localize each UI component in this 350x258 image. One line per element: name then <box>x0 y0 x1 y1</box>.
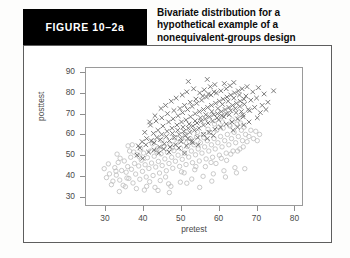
x-tick-mark <box>294 206 295 211</box>
plot-frame <box>85 67 303 206</box>
y-tick-label: 80 <box>66 87 75 97</box>
x-tick-label: 40 <box>131 213 155 223</box>
figure-title-line-3: nonequivalent-groups design <box>157 32 339 44</box>
x-tick-mark <box>181 206 182 211</box>
figure-number-label: FIGURE 10–2a <box>46 21 125 33</box>
figure-title: Bivariate distribution for a hypothetica… <box>157 7 339 44</box>
figure-container: FIGURE 10–2a Bivariate distribution for … <box>0 0 350 258</box>
figure-title-line-2: hypothetical example of a <box>157 19 339 31</box>
x-tick-mark <box>143 206 144 211</box>
series-program <box>135 77 276 160</box>
x-tick-label: 50 <box>169 213 193 223</box>
y-tick-label: 30 <box>66 191 75 201</box>
y-tick-label: 40 <box>66 170 75 180</box>
x-tick-mark <box>219 206 220 211</box>
figure-panel: posttest 30405060708090 304050607080 pre… <box>23 45 332 243</box>
x-axis-title: pretest <box>85 224 303 234</box>
x-tick-label: 80 <box>282 213 306 223</box>
y-tick-label: 70 <box>66 108 75 118</box>
y-tick-label: 60 <box>66 128 75 138</box>
x-tick-label: 30 <box>93 213 117 223</box>
scatter-markers <box>86 68 302 205</box>
y-tick-label: 50 <box>66 149 75 159</box>
x-tick-mark <box>257 206 258 211</box>
y-axis-title: posttest <box>36 92 46 121</box>
scatter-plot: posttest 30405060708090 304050607080 pre… <box>24 46 333 244</box>
figure-title-line-1: Bivariate distribution for a <box>157 7 339 19</box>
x-tick-mark <box>105 206 106 211</box>
x-tick-label: 60 <box>207 213 231 223</box>
x-tick-label: 70 <box>245 213 269 223</box>
figure-number-badge: FIGURE 10–2a <box>23 9 147 45</box>
y-tick-label: 90 <box>66 66 75 76</box>
